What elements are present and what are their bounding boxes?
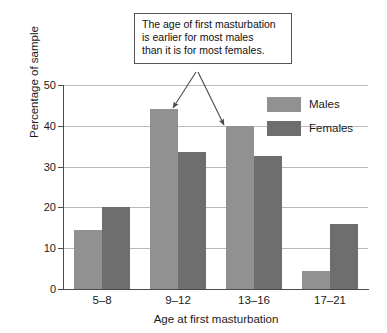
y-tick-mark-0	[58, 289, 64, 290]
gridline-50	[64, 85, 368, 86]
y-axis-line	[63, 85, 64, 290]
annotation-line-1: The age of first masturbation	[142, 18, 285, 31]
gridline-30	[64, 167, 368, 168]
x-category-label-13-16: 13–16	[226, 294, 282, 306]
x-axis-title: Age at first masturbation	[64, 313, 368, 325]
y-tick-label-0: 0	[50, 284, 56, 295]
bar-chart: 50 40 30 20 10 0 Percentage of sample Ag…	[0, 0, 387, 333]
y-tick-label-30: 30	[44, 162, 56, 173]
x-axis-line	[63, 289, 369, 290]
y-tick-mark-30	[58, 167, 64, 168]
y-tick-mark-20	[58, 207, 64, 208]
y-tick-label-50: 50	[44, 80, 56, 91]
x-category-label-17-21: 17–21	[302, 294, 358, 306]
x-category-label-5-8: 5–8	[74, 294, 130, 306]
bar-females-9-12	[178, 152, 206, 289]
y-tick-label-20: 20	[44, 202, 56, 213]
bar-males-13-16	[226, 126, 254, 289]
y-tick-mark-50	[58, 85, 64, 86]
bar-females-13-16	[254, 156, 282, 289]
annotation-callout: The age of first masturbation is earlier…	[134, 13, 292, 64]
plot-area	[64, 85, 368, 289]
y-tick-label-10: 10	[44, 243, 56, 254]
legend-swatch-males-icon	[267, 97, 301, 112]
bar-females-5-8	[102, 207, 130, 289]
y-tick-mark-40	[58, 126, 64, 127]
annotation-line-2: is earlier for most males	[142, 31, 285, 44]
bar-females-17-21	[330, 224, 358, 289]
legend-label-males: Males	[309, 98, 340, 110]
y-tick-mark-10	[58, 248, 64, 249]
bar-males-5-8	[74, 230, 102, 289]
y-axis-title: Percentage of sample	[28, 0, 40, 182]
bar-males-9-12	[150, 109, 178, 289]
x-category-label-9-12: 9–12	[150, 294, 206, 306]
legend-label-females: Females	[309, 122, 353, 134]
legend-swatch-females-icon	[267, 121, 301, 136]
y-tick-label-40: 40	[44, 121, 56, 132]
bar-males-17-21	[302, 271, 330, 289]
annotation-line-3: than it is for most females.	[142, 44, 285, 57]
